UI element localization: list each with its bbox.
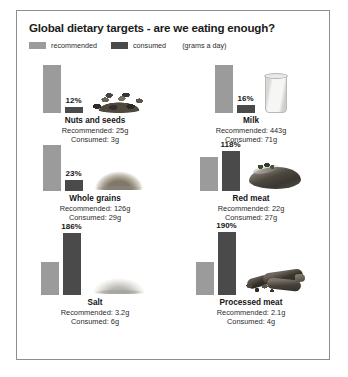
percent-label: 190% xyxy=(216,221,236,230)
bar-consumed: 23% xyxy=(65,180,83,191)
legend-label-consumed: consumed xyxy=(133,41,166,50)
percent-label: 118% xyxy=(220,140,240,149)
chart-zone: 23% xyxy=(17,141,173,191)
recommended-stat: Recommended: 126g xyxy=(17,204,173,213)
consumed-stat: Consumed: 4g xyxy=(173,317,329,326)
chart-zone: 118% xyxy=(173,141,329,191)
infographic-header: Global dietary targets - are we eating e… xyxy=(17,11,329,50)
bar-recommended xyxy=(43,145,61,191)
food-name: Nuts and seeds xyxy=(17,116,173,126)
recommended-stat: Recommended: 25g xyxy=(17,126,173,135)
recommended-stat: Recommended: 22g xyxy=(173,204,329,213)
page-title: Global dietary targets - are we eating e… xyxy=(29,21,329,34)
bar-consumed: 118% xyxy=(222,151,240,191)
percent-label: 16% xyxy=(237,94,253,103)
infographic-panel: Global dietary targets - are we eating e… xyxy=(16,10,330,360)
food-name: Milk xyxy=(173,116,329,126)
panel-caption: Whole grains Recommended: 126g Consumed:… xyxy=(17,194,173,222)
chart-zone: 16% xyxy=(173,61,329,113)
bar-consumed: 190% xyxy=(218,232,236,295)
chart-zone: 186% xyxy=(17,221,173,295)
panel-salt: 186% Salt Recommended: 3.2g Consumed: 6g xyxy=(17,221,173,326)
bar-group: 16% xyxy=(215,65,255,113)
panel-caption: Red meat Recommended: 22g Consumed: 27g xyxy=(173,194,329,222)
food-name: Red meat xyxy=(173,194,329,204)
panel-nuts-and-seeds: 12% Nuts and seeds Recommended: 25g Cons… xyxy=(17,61,173,141)
bar-recommended xyxy=(196,262,214,295)
food-name: Whole grains xyxy=(17,194,173,204)
legend-label-recommended: recommended xyxy=(51,41,97,50)
percent-label: 12% xyxy=(65,96,81,105)
food-photo-processed-meat xyxy=(243,265,307,295)
recommended-stat: Recommended: 3.2g xyxy=(17,308,173,317)
bar-recommended xyxy=(215,65,233,113)
percent-label: 186% xyxy=(61,222,81,231)
bar-recommended xyxy=(41,262,59,295)
percent-label: 23% xyxy=(65,169,81,178)
recommended-stat: Recommended: 443g xyxy=(173,126,329,135)
bar-consumed: 16% xyxy=(237,105,255,113)
food-photo-salt xyxy=(88,271,150,295)
food-photo-milk-glass xyxy=(262,73,288,113)
bar-group: 12% xyxy=(43,65,83,113)
bar-consumed: 186% xyxy=(63,233,81,295)
panel-caption: Processed meat Recommended: 2.1g Consume… xyxy=(173,298,329,326)
panel-caption: Nuts and seeds Recommended: 25g Consumed… xyxy=(17,116,173,144)
panel-milk: 16% Milk Recommended: 443g Consumed: 71g xyxy=(173,61,329,141)
consumed-stat: Consumed: 6g xyxy=(17,317,173,326)
bar-group: 186% xyxy=(41,233,81,295)
panels-grid: 12% Nuts and seeds Recommended: 25g Cons… xyxy=(17,61,329,326)
panel-red-meat: 118% Red meat Recommended: 22g Consumed:… xyxy=(173,141,329,221)
food-name: Salt xyxy=(17,298,173,308)
chart-zone: 12% xyxy=(17,61,173,113)
legend-swatch-recommended xyxy=(29,42,46,49)
panel-processed-meat: 190% Processed meat Recommended: 2.1g Co… xyxy=(173,221,329,326)
bar-consumed: 12% xyxy=(65,107,83,113)
recommended-stat: Recommended: 2.1g xyxy=(173,308,329,317)
chart-zone: 190% xyxy=(173,221,329,295)
bar-recommended xyxy=(43,65,61,113)
bar-group: 23% xyxy=(43,145,83,191)
panel-whole-grains: 23% Whole grains Recommended: 126g Consu… xyxy=(17,141,173,221)
legend-units-note: (grams a day) xyxy=(182,41,226,50)
bar-group: 118% xyxy=(200,151,240,191)
food-photo-nuts xyxy=(90,87,148,113)
food-photo-red-meat xyxy=(247,163,303,191)
food-name: Processed meat xyxy=(173,298,329,308)
panel-caption: Milk Recommended: 443g Consumed: 71g xyxy=(173,116,329,144)
bar-group: 190% xyxy=(196,232,236,295)
chart-legend: recommended consumed (grams a day) xyxy=(29,41,329,50)
legend-swatch-consumed xyxy=(111,42,128,49)
panel-caption: Salt Recommended: 3.2g Consumed: 6g xyxy=(17,298,173,326)
bar-recommended xyxy=(200,157,218,191)
food-photo-grains xyxy=(90,165,148,191)
